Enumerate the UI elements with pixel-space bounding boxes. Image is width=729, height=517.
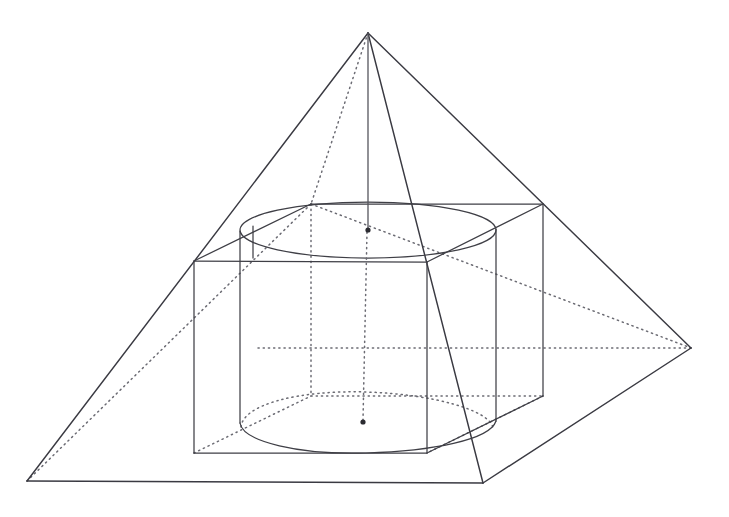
base-edge-left-back	[27, 204, 311, 481]
bottom-center-dot	[360, 419, 365, 424]
prism-top-right-edge	[427, 204, 543, 262]
top-center-dot	[365, 227, 370, 232]
lateral-edge-apex-left	[27, 33, 368, 481]
prism-bottom-right-edge	[427, 396, 543, 453]
cylinder-bottom-front-arc	[240, 421, 496, 453]
pyramid-hidden-lateral-edge	[311, 33, 368, 204]
geometry-figure: Cylinder inscribed in a rectangular pris…	[0, 0, 729, 517]
lateral-edge-apex-back	[311, 33, 368, 204]
cylinder-body	[240, 202, 496, 453]
base-edge-left-front	[27, 481, 483, 483]
lateral-edge-apex-right	[368, 33, 691, 348]
base-edge-front-right	[483, 348, 691, 483]
prism-top-front-edge	[194, 261, 427, 262]
prism-hidden-edges	[194, 204, 543, 453]
vertical-axis	[363, 33, 368, 420]
cylinder-bottom-hidden-arc	[241, 392, 493, 428]
prism-hidden-bottom-back-left	[194, 396, 311, 453]
geometry-canvas	[0, 0, 729, 517]
prism-visible-edges	[194, 204, 543, 453]
pyramid-hidden-base-edges	[27, 204, 691, 481]
cylinder-bottom-back-arc	[241, 392, 493, 428]
pyramid-visible-base-edges	[27, 348, 691, 483]
